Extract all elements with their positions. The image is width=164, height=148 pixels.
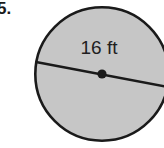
circle-diagram	[0, 0, 164, 148]
diameter-measurement-label: 16 ft	[74, 37, 124, 59]
center-point-dot	[97, 69, 106, 78]
figure-container: 5. 16 ft	[0, 0, 164, 148]
problem-number: 5.	[0, 0, 11, 19]
